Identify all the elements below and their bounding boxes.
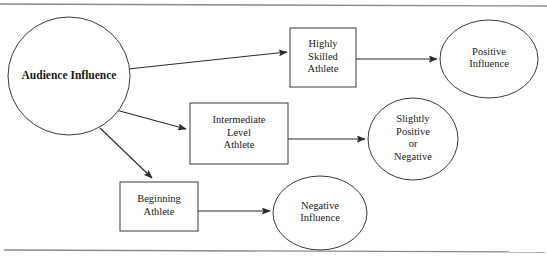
label-line: Slightly: [396, 114, 430, 125]
label-line: Skilled: [308, 51, 339, 62]
top-rule-line: [0, 4, 547, 6]
label-line: Negative: [301, 200, 339, 211]
node-highly-skilled-athlete: HighlySkilledAthlete: [290, 28, 356, 87]
node-label-highly-skilled-athlete: HighlySkilledAthlete: [308, 39, 339, 75]
arrow-audience-to-intermediate: [116, 110, 186, 129]
node-negative-influence: NegativeInfluence: [273, 176, 367, 250]
label-line: Highly: [308, 39, 338, 50]
node-audience-influence: Audience Influence: [8, 17, 130, 135]
label-line: Audience Influence: [22, 69, 117, 81]
label-line: or: [409, 139, 418, 150]
label-line: Beginning: [137, 194, 181, 205]
label-line: Athlete: [144, 206, 175, 217]
bottom-rule-line: [4, 250, 545, 252]
node-beginning-athlete: BeginningAthlete: [120, 182, 198, 231]
node-label-audience-influence: Audience Influence: [22, 69, 117, 81]
label-line: Level: [227, 127, 251, 138]
label-line: Influence: [469, 59, 509, 70]
diagram-page: Audience InfluenceHighlySkilledAthleteIn…: [0, 0, 547, 265]
label-line: Athlete: [308, 63, 339, 74]
node-label-positive-influence: PositiveInfluence: [469, 46, 509, 69]
label-line: Influence: [300, 213, 340, 224]
label-line: Intermediate: [212, 115, 265, 126]
node-positive-influence: PositiveInfluence: [440, 20, 538, 98]
label-line: Positive: [396, 126, 430, 137]
label-line: Athlete: [224, 139, 255, 150]
node-label-negative-influence: NegativeInfluence: [300, 200, 340, 223]
label-line: Negative: [394, 151, 432, 162]
arrow-audience-to-highly-skilled: [128, 52, 287, 69]
nodes-layer: Audience InfluenceHighlySkilledAthleteIn…: [8, 17, 538, 250]
node-slightly-positive-or-negative: SlightlyPositiveorNegative: [368, 98, 458, 180]
label-line: Positive: [472, 46, 506, 57]
node-intermediate-level-athlete: IntermediateLevelAthlete: [190, 103, 288, 164]
influence-flow-diagram: Audience InfluenceHighlySkilledAthleteIn…: [0, 0, 547, 265]
arrow-audience-to-beginning: [100, 128, 152, 178]
